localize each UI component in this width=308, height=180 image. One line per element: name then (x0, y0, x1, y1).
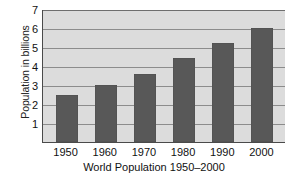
x-tick-label: 1950 (46, 145, 85, 159)
bar (212, 43, 234, 142)
bar (56, 95, 78, 143)
y-axis-tick-labels: 1234567 (22, 10, 38, 143)
y-tick-label: 4 (22, 62, 38, 73)
y-tick-label: 5 (22, 43, 38, 54)
x-tick-label: 1990 (203, 145, 242, 159)
bar-series (43, 10, 285, 142)
bar (173, 58, 195, 142)
bar-slot (47, 10, 86, 142)
y-tick-label: 3 (22, 81, 38, 92)
y-tick-label: 6 (22, 24, 38, 35)
x-axis-tick-labels: 195019601970198019902000 (42, 145, 285, 159)
bar-slot (203, 10, 242, 142)
y-tick-label: 7 (22, 5, 38, 16)
bar (95, 85, 117, 142)
bar-slot (164, 10, 203, 142)
bar (134, 74, 156, 142)
bar-slot (86, 10, 125, 142)
bar (251, 28, 273, 142)
x-tick-label: 1960 (85, 145, 124, 159)
plot-area (42, 10, 285, 143)
x-tick-label: 1980 (164, 145, 203, 159)
y-tick-label: 2 (22, 100, 38, 111)
x-tick-label: 1970 (124, 145, 163, 159)
x-tick-label: 2000 (242, 145, 281, 159)
bar-slot (125, 10, 164, 142)
x-axis-title: World Population 1950–2000 (0, 161, 308, 173)
bar-chart-figure: Population in billions 1234567 195019601… (0, 0, 308, 180)
y-tick-label: 1 (22, 119, 38, 130)
bar-slot (242, 10, 281, 142)
